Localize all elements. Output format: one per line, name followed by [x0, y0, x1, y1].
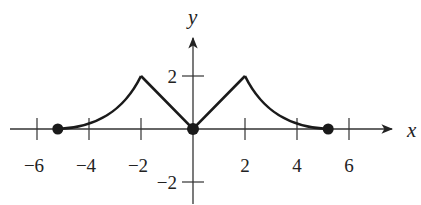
x-axis-label: x	[406, 118, 417, 142]
y-axis-label: y	[186, 5, 198, 29]
curve-left	[58, 76, 141, 129]
filled-point	[323, 124, 334, 135]
x-tick-label: 6	[344, 155, 354, 176]
filled-point	[52, 124, 63, 135]
plot-area: −6−4−22462−2 x y	[0, 0, 421, 205]
x-tick-label: −2	[128, 155, 148, 176]
y-tick-label: 2	[168, 66, 178, 87]
function-graph: −6−4−22462−2 x y	[0, 0, 421, 205]
x-tick-label: 2	[240, 155, 250, 176]
filled-point	[187, 123, 199, 135]
x-tick-label: −6	[24, 155, 44, 176]
x-tick-label: −4	[76, 155, 97, 176]
curve-right	[245, 76, 328, 129]
x-tick-label: 4	[292, 155, 302, 176]
y-tick-label: −2	[157, 172, 177, 193]
